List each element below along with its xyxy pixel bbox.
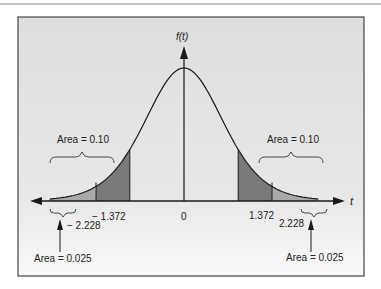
right-lower-area-label: Area = 0.025 [286,253,344,263]
origin-label: 0 [181,212,187,222]
y-axis-label: f(t) [176,32,188,42]
figure-frame [18,17,364,276]
left-upper-area-label: Area = 0.10 [57,135,109,145]
right-upper-area-label: Area = 0.10 [267,135,319,145]
t-distribution-figure: f(t) t 0 − 1.372 − 2.228 1.372 2.228 Are… [0,0,381,289]
tick-label-pos-1372: 1.372 [249,211,274,221]
tick-label-neg-2228: − 2.228 [67,221,101,231]
left-lower-area-label: Area = 0.025 [34,254,92,264]
x-axis-label: t [350,196,353,207]
tick-label-pos-2228: 2.228 [279,219,304,229]
